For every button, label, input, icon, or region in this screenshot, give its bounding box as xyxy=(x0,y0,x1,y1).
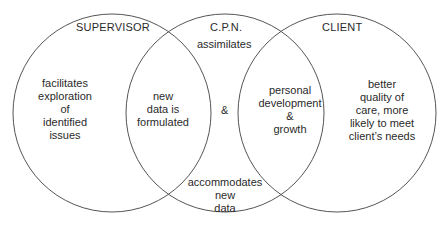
supervisor-title: SUPERVISOR xyxy=(76,21,150,34)
supervisor-only-text: facilitates exploration of identified is… xyxy=(30,77,100,142)
cpn-title: C.P.N. xyxy=(210,21,242,34)
accommodates-text: accommodates new data xyxy=(180,176,270,215)
supervisor-line: of xyxy=(30,103,100,116)
client-line: likely to meet xyxy=(337,117,427,130)
client-line: better xyxy=(337,78,427,91)
cpn-client-overlap-text: personal development & growth xyxy=(250,84,330,136)
client-line: client’s needs xyxy=(337,130,427,143)
supervisor-line: exploration xyxy=(30,90,100,103)
overlap-line: formulated xyxy=(133,116,193,129)
supervisor-line: facilitates xyxy=(30,77,100,90)
client-line: care, more xyxy=(337,104,427,117)
overlap-line: new xyxy=(133,90,193,103)
accommodates-line: data xyxy=(180,202,270,215)
overlap-line: & xyxy=(250,110,330,123)
client-only-text: better quality of care, more likely to m… xyxy=(337,78,427,143)
supervisor-line: identified xyxy=(30,116,100,129)
overlap-line: development xyxy=(250,97,330,110)
assimilates-label: assimilates xyxy=(197,38,251,51)
client-line: quality of xyxy=(337,91,427,104)
overlap-line: personal xyxy=(250,84,330,97)
supervisor-line: issues xyxy=(30,129,100,142)
overlap-line: data is xyxy=(133,103,193,116)
ampersand-label: & xyxy=(221,104,228,117)
accommodates-line: new xyxy=(180,189,270,202)
overlap-line: growth xyxy=(250,123,330,136)
client-title: CLIENT xyxy=(322,21,362,34)
supervisor-cpn-overlap-text: new data is formulated xyxy=(133,90,193,129)
accommodates-line: accommodates xyxy=(180,176,270,189)
